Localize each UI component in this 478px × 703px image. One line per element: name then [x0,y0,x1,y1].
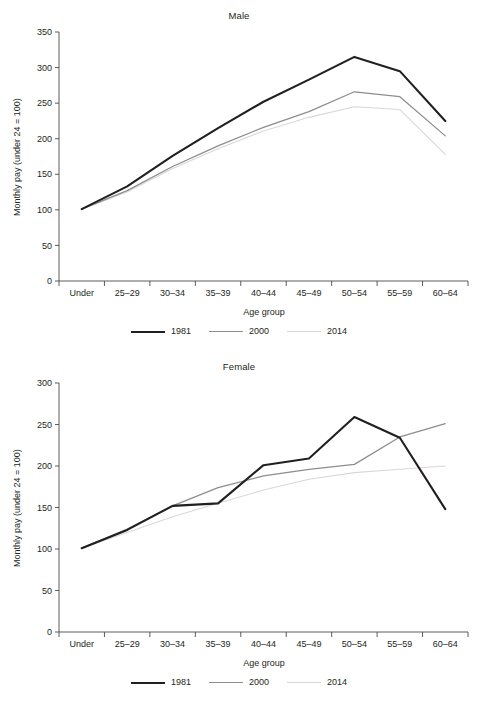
x-tick-label: 50–54 [342,639,367,649]
legend-label-2014: 2014 [327,678,347,687]
legend-swatch-2000 [209,331,243,332]
y-tick-label: 50 [42,241,52,251]
y-tick-label: 300 [37,63,52,73]
chart-panel-female: Female 050100150200250300Under2425–2930–… [0,351,478,703]
plot-area-male: 050100150200250300350Under2425–2930–3435… [0,0,478,352]
legend-swatch-1981 [131,331,165,333]
x-tick-label: 40–44 [251,639,276,649]
legend-item-1981: 1981 [131,327,191,336]
legend-label-1981: 1981 [171,327,191,336]
x-tick-label: Under [69,288,94,298]
legend-swatch-2014 [287,331,321,332]
legend-item-2000: 2000 [209,678,269,687]
y-tick-label: 100 [37,205,52,215]
y-tick-label: 150 [37,169,52,179]
x-tick-label: 45–49 [296,639,321,649]
plot-svg-male: 050100150200250300350Under2425–2930–3435… [0,0,478,300]
x-tick-label: 60–64 [433,288,458,298]
legend-male: 198120002014 [0,327,478,336]
legend-swatch-1981 [131,682,165,684]
x-tick-label: 45–49 [296,288,321,298]
legend-item-2014: 2014 [287,678,347,687]
legend-label-2014: 2014 [327,327,347,336]
legend-item-2000: 2000 [209,327,269,336]
legend-swatch-2014 [287,682,321,683]
y-tick-label: 150 [37,503,52,513]
legend-item-2014: 2014 [287,327,347,336]
x-tick-label: Under [69,639,94,649]
x-axis-label-male: Age group [59,307,469,317]
legend-swatch-2000 [209,682,243,683]
x-tick-label: 24 [77,299,87,300]
x-tick-label: 30–34 [160,639,185,649]
series-line-1981 [82,417,446,548]
legend-label-1981: 1981 [171,678,191,687]
y-tick-label: 250 [37,420,52,430]
x-tick-label: 24 [77,650,87,651]
series-line-2014 [82,466,446,548]
legend-label-2000: 2000 [249,678,269,687]
y-tick-label: 0 [47,276,52,286]
x-axis-label-female: Age group [59,658,469,668]
legend-item-1981: 1981 [131,678,191,687]
x-tick-label: 40–44 [251,288,276,298]
y-tick-label: 250 [37,98,52,108]
x-tick-label: 55–59 [387,639,412,649]
y-tick-label: 0 [47,627,52,637]
plot-svg-female: 050100150200250300Under2425–2930–3435–39… [0,351,478,651]
x-tick-label: 50–54 [342,288,367,298]
y-tick-label: 300 [37,378,52,388]
y-tick-label: 50 [42,586,52,596]
y-tick-label: 350 [37,27,52,37]
x-tick-label: 55–59 [387,288,412,298]
chart-panel-male: Male 050100150200250300350Under2425–2930… [0,0,478,352]
x-tick-label: 60–64 [433,639,458,649]
y-axis-label-male: Monthly pay (under 24 = 100) [10,40,24,275]
legend-female: 198120002014 [0,678,478,687]
y-tick-label: 100 [37,544,52,554]
x-tick-label: 25–29 [115,639,140,649]
y-tick-label: 200 [37,134,52,144]
x-tick-label: 30–34 [160,288,185,298]
y-axis-label-female: Monthly pay (under 24 = 100) [10,391,24,626]
plot-area-female: 050100150200250300Under2425–2930–3435–39… [0,351,478,703]
legend-label-2000: 2000 [249,327,269,336]
y-tick-label: 200 [37,461,52,471]
x-tick-label: 35–39 [206,288,231,298]
x-tick-label: 25–29 [115,288,140,298]
x-tick-label: 35–39 [206,639,231,649]
series-line-2014 [82,107,446,209]
